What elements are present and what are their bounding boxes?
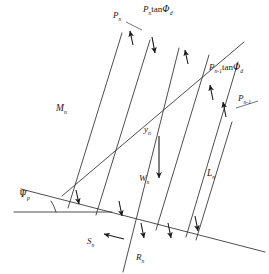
label-ln: Ln xyxy=(207,169,215,181)
leader-pn xyxy=(126,22,142,30)
label-pn-tan-phi-d: PntanΦd xyxy=(143,5,172,16)
normal-arrow-rn xyxy=(141,223,144,238)
slice-line-1 xyxy=(68,33,122,208)
slice-line-6 xyxy=(196,122,232,240)
label-pn-minus-1-tan-phi-d: Pn-1tanΦd xyxy=(209,63,243,74)
label-wn: Wn xyxy=(139,174,149,185)
slice-line-3 xyxy=(123,48,179,272)
label-psi-p-angle: Ψp xyxy=(19,190,30,201)
force-arrow-pn-tan-phi xyxy=(152,37,155,53)
slip-surface-line xyxy=(21,189,265,252)
diagram-canvas xyxy=(0,0,269,274)
normal-arrow-4 xyxy=(195,216,198,231)
label-pn-minus-1: Pn-1 xyxy=(238,94,251,105)
force-arrow-sn-shear xyxy=(104,234,124,239)
slice-line-5 xyxy=(186,62,238,237)
force-arrow-pn xyxy=(130,31,133,45)
slice-line-4 xyxy=(156,55,209,230)
angle-arc xyxy=(51,201,56,212)
label-yn: yn xyxy=(144,125,151,136)
normal-arrow-3 xyxy=(168,223,171,238)
slice-line-2 xyxy=(96,40,150,215)
label-mn: Mn xyxy=(56,104,67,116)
label-sn: Sn xyxy=(87,237,94,248)
force-arrow-top-mid xyxy=(185,50,188,64)
slice-force-diagram: Pn PntanΦd Pn-1tanΦd Pn-1 Mn yn Wn Ln Sn… xyxy=(0,0,269,274)
label-pn: Pn xyxy=(113,11,121,22)
force-arrow-pn1-tan-phi xyxy=(210,85,213,100)
normal-arrow-2 xyxy=(119,201,122,216)
label-rn: Rn xyxy=(136,253,144,264)
normal-arrow-1 xyxy=(76,190,79,204)
